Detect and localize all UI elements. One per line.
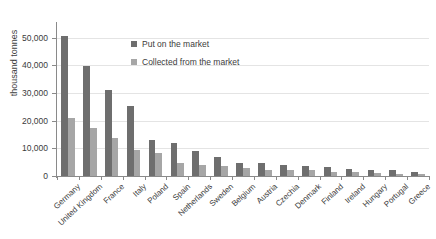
legend-label-put-on-the-market: Put on the market <box>142 39 209 49</box>
legend-item-collected-from-the-market: Collected from the market <box>131 57 239 67</box>
bar-collected-from-the-market[interactable] <box>199 165 206 176</box>
x-axis-tick-mark <box>145 176 146 180</box>
y-axis-tick-label: 30,000 <box>0 88 48 98</box>
bar-collected-from-the-market[interactable] <box>155 153 162 176</box>
x-axis-tick-mark <box>385 176 386 180</box>
bar-group[interactable] <box>324 24 338 176</box>
bar-put-on-the-market[interactable] <box>192 151 199 176</box>
legend-swatch-put-on-the-market <box>131 41 137 47</box>
bar-group[interactable] <box>368 24 382 176</box>
bar-put-on-the-market[interactable] <box>346 169 353 176</box>
bar-group[interactable] <box>258 24 272 176</box>
plot-area <box>57 24 429 176</box>
x-axis-tick-mark <box>57 176 58 180</box>
bar-group[interactable] <box>346 24 360 176</box>
bar-collected-from-the-market[interactable] <box>112 138 119 176</box>
x-axis-tick-mark <box>298 176 299 180</box>
bar-group[interactable] <box>389 24 403 176</box>
legend-item-put-on-the-market: Put on the market <box>131 39 239 49</box>
bar-put-on-the-market[interactable] <box>149 140 156 176</box>
x-axis-line <box>56 176 430 177</box>
x-axis-tick-mark <box>232 176 233 180</box>
bar-collected-from-the-market[interactable] <box>243 168 250 176</box>
x-axis-tick-mark <box>123 176 124 180</box>
x-axis-tick-mark <box>341 176 342 180</box>
x-axis-tick-mark <box>101 176 102 180</box>
chart-legend: Put on the market Collected from the mar… <box>131 39 239 75</box>
bar-group[interactable] <box>302 24 316 176</box>
bar-put-on-the-market[interactable] <box>214 157 221 176</box>
bar-put-on-the-market[interactable] <box>324 167 331 176</box>
bar-put-on-the-market[interactable] <box>171 143 178 176</box>
x-axis-tick-mark <box>363 176 364 180</box>
bar-put-on-the-market[interactable] <box>280 165 287 176</box>
bar-put-on-the-market[interactable] <box>302 166 309 176</box>
bar-group[interactable] <box>280 24 294 176</box>
x-axis-tick-mark <box>254 176 255 180</box>
bar-put-on-the-market[interactable] <box>105 90 112 177</box>
legend-label-collected-from-the-market: Collected from the market <box>142 57 239 67</box>
y-axis-tick-label: 20,000 <box>0 116 48 126</box>
bar-put-on-the-market[interactable] <box>83 66 90 176</box>
legend-swatch-collected-from-the-market <box>131 59 137 65</box>
x-axis-tick-mark <box>276 176 277 180</box>
y-axis-line <box>56 22 57 178</box>
y-axis-tick-label: 0 <box>0 171 48 181</box>
x-axis-tick-mark <box>210 176 211 180</box>
bar-put-on-the-market[interactable] <box>127 106 134 176</box>
bar-collected-from-the-market[interactable] <box>221 166 228 176</box>
y-axis-tick-label: 40,000 <box>0 60 48 70</box>
bar-group[interactable] <box>411 24 425 176</box>
x-axis-tick-mark <box>188 176 189 180</box>
y-axis-tick-label: 10,000 <box>0 143 48 153</box>
bar-collected-from-the-market[interactable] <box>134 150 141 176</box>
x-axis-tick-mark <box>429 176 430 180</box>
bar-group[interactable] <box>61 24 75 176</box>
bar-collected-from-the-market[interactable] <box>68 118 75 176</box>
bar-collected-from-the-market[interactable] <box>90 128 97 176</box>
x-axis-tick-mark <box>79 176 80 180</box>
bar-chart: thousand tonnes 010,00020,00030,00040,00… <box>0 0 436 239</box>
x-axis-tick-mark <box>407 176 408 180</box>
bar-group[interactable] <box>105 24 119 176</box>
bar-put-on-the-market[interactable] <box>236 163 243 176</box>
bar-collected-from-the-market[interactable] <box>177 163 184 176</box>
x-axis-tick-mark <box>320 176 321 180</box>
y-axis-tick-label: 50,000 <box>0 33 48 43</box>
bar-put-on-the-market[interactable] <box>258 163 265 176</box>
bar-group[interactable] <box>83 24 97 176</box>
x-axis-tick-mark <box>166 176 167 180</box>
bar-put-on-the-market[interactable] <box>61 36 68 176</box>
